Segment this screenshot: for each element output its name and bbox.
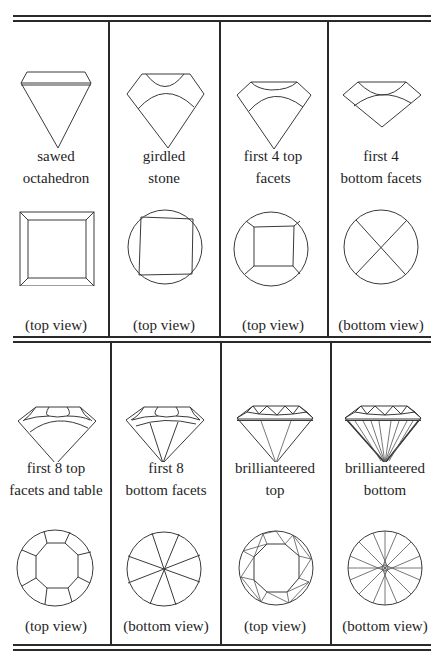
view-caption: (top view) (221, 316, 325, 334)
stage-label-line1: brillianteered (333, 457, 437, 479)
brillianteered-top-top-view-icon (223, 522, 327, 612)
sawed-octahedron-top-view-icon (4, 206, 108, 286)
view-caption: (bottom view) (329, 316, 433, 334)
stage-brillianteered-bottom: brillianteered bottom (bottom view) (333, 342, 437, 644)
stage-label-line1: first 8 (114, 457, 218, 479)
girdled-stone-top-view-icon (112, 202, 216, 292)
stage-first-4-top-facets: first 4 top facets (top view) (221, 21, 325, 336)
first-4-bottom-facets-side-icon (329, 49, 433, 159)
stage-label-line2: bottom (333, 479, 437, 501)
first-8-top-facets-side-icon (4, 362, 108, 462)
column-divider (110, 342, 112, 645)
view-caption: (bottom view) (333, 617, 437, 635)
stage-label-line1: first 4 (329, 145, 433, 167)
first-8-bottom-facets-bottom-view-icon (114, 522, 218, 612)
stage-label-line2: bottom facets (114, 479, 218, 501)
brillianteered-top-side-icon (223, 362, 327, 462)
view-caption: (top view) (223, 617, 327, 635)
stage-label-line2: stone (112, 167, 216, 189)
stage-girdled-stone: girdled stone (top view) (112, 21, 216, 336)
column-divider (108, 21, 110, 336)
view-caption: (top view) (112, 316, 216, 334)
first-4-bottom-facets-bottom-view-icon (329, 202, 433, 292)
first-8-bottom-facets-side-icon (114, 362, 218, 462)
stage-label-line1: first 4 top (221, 145, 325, 167)
view-caption: (top view) (4, 617, 108, 635)
first-4-top-facets-side-icon (221, 49, 325, 159)
stage-first-8-bottom-facets: first 8 bottom facets (bottom view) (114, 342, 218, 644)
column-divider (330, 342, 332, 645)
stage-brillianteered-top: brillianteered top (top view) (223, 342, 327, 644)
brillianteered-bottom-side-icon (333, 362, 437, 462)
stage-sawed-octahedron: sawed octahedron (top view) (4, 21, 108, 336)
bottom-rule-lower (13, 649, 431, 651)
column-divider (220, 342, 222, 645)
bottom-rule-upper (13, 644, 431, 646)
stage-label-line2: octahedron (4, 167, 108, 189)
middle-rule-upper (13, 336, 431, 338)
view-caption: (bottom view) (114, 617, 218, 635)
top-rule-outer (13, 15, 431, 17)
stage-label-line2: facets (221, 167, 325, 189)
view-caption: (top view) (4, 316, 108, 334)
stage-label-line1: sawed (4, 145, 108, 167)
first-4-top-facets-top-view-icon (221, 202, 325, 292)
stage-first-4-bottom-facets: first 4 bottom facets (bottom view) (329, 21, 433, 336)
first-8-top-facets-top-view-icon (4, 522, 108, 612)
stage-label-line1: girdled (112, 145, 216, 167)
stage-label-line2: top (223, 479, 327, 501)
stage-label-line1: first 8 top (4, 457, 108, 479)
stage-label-line1: brillianteered (223, 457, 327, 479)
sawed-octahedron-side-icon (4, 49, 108, 159)
girdled-stone-side-icon (112, 49, 216, 159)
stage-label-line2: bottom facets (329, 167, 433, 189)
brillianteered-bottom-bottom-view-icon (333, 522, 437, 612)
stage-first-8-top-facets-and-table: first 8 top facets and table (top view) (4, 342, 108, 644)
stage-label-line2: facets and table (4, 479, 108, 501)
